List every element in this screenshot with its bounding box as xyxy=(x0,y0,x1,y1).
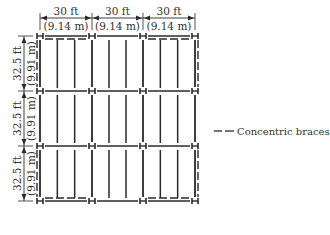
girders xyxy=(40,40,195,197)
left-dimensions: 32.5 ft(9.91 m)32.5 ft(9.91 m)32.5 ft(9.… xyxy=(11,36,37,201)
column-symbol xyxy=(37,33,43,39)
beams xyxy=(45,36,190,201)
column-symbol xyxy=(140,143,146,149)
column-symbol xyxy=(37,143,43,149)
column-symbol xyxy=(37,198,43,204)
joists xyxy=(57,40,177,198)
bay-width-ft-label: 30 ft xyxy=(157,5,183,17)
column-symbol xyxy=(192,143,198,149)
bay-width-ft-label: 30 ft xyxy=(54,5,80,17)
column-symbol xyxy=(140,198,146,204)
bay-width-m-label: (9.14 m) xyxy=(95,20,140,32)
bay-depth-m-label: (9.91 m) xyxy=(25,41,37,86)
bay-depth-m-label: (9.91 m) xyxy=(25,96,37,141)
columns xyxy=(37,33,198,204)
legend: Concentric braces xyxy=(214,126,330,137)
column-symbol xyxy=(89,88,95,94)
column-symbol xyxy=(89,143,95,149)
column-symbol xyxy=(140,33,146,39)
column-symbol xyxy=(192,33,198,39)
column-symbol xyxy=(140,88,146,94)
legend-brace-label: Concentric braces xyxy=(237,126,330,137)
concentric-braces xyxy=(37,39,198,198)
column-symbol xyxy=(89,33,95,39)
column-symbol xyxy=(192,198,198,204)
bay-width-m-label: (9.14 m) xyxy=(44,20,89,32)
bay-width-ft-label: 30 ft xyxy=(105,5,131,17)
bay-depth-ft-label: 32.5 ft xyxy=(11,100,23,136)
column-symbol xyxy=(192,88,198,94)
top-dimensions: 30 ft(9.14 m)30 ft(9.14 m)30 ft(9.14 m) xyxy=(40,5,195,32)
bay-depth-ft-label: 32.5 ft xyxy=(11,155,23,191)
bay-depth-ft-label: 32.5 ft xyxy=(11,45,23,81)
bay-width-m-label: (9.14 m) xyxy=(147,20,192,32)
bay-depth-m-label: (9.91 m) xyxy=(25,151,37,196)
column-symbol xyxy=(89,198,95,204)
column-symbol xyxy=(37,88,43,94)
framing-plan-diagram: 30 ft(9.14 m)30 ft(9.14 m)30 ft(9.14 m) … xyxy=(0,0,330,235)
